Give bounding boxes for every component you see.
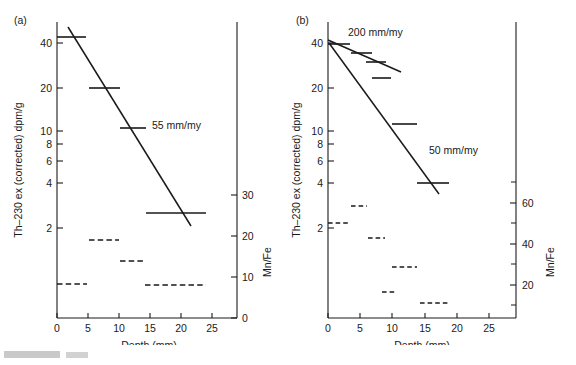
annotation-200-mm-my: 200 mm/my xyxy=(348,26,404,38)
tick-label: 40 xyxy=(522,238,534,250)
tick-label: 20 xyxy=(175,322,187,334)
tick-label: 30 xyxy=(242,189,254,201)
tick-label: 0 xyxy=(325,322,331,334)
panel-a-plot: 40 20 10 8 6 4 2 0 5 10 15 xyxy=(0,0,288,345)
tick-label: 6 xyxy=(46,155,52,167)
tick-label: 8 xyxy=(317,138,323,150)
tick-label: 25 xyxy=(206,322,218,334)
tick-label: 10 xyxy=(40,125,52,137)
tick-label: 0 xyxy=(242,312,248,324)
panel-a-mnfe-bars xyxy=(57,240,206,285)
panel-a-bottom-tick-labels: 0 5 10 15 20 25 xyxy=(54,322,218,334)
panel-b-label: (b) xyxy=(296,14,309,26)
tick-label: 6 xyxy=(317,155,323,167)
tick-label: 10 xyxy=(386,322,398,334)
tick-label: 20 xyxy=(522,279,534,291)
panel-b-plot: 40 20 10 8 6 4 2 0 5 10 15 xyxy=(288,0,576,345)
panel-a-left-ticks xyxy=(57,43,63,228)
panel-b-bottom-tick-labels: 0 5 10 15 20 25 xyxy=(325,322,495,334)
tick-label: 10 xyxy=(311,125,323,137)
tick-label: 20 xyxy=(40,82,52,94)
tick-label: 2 xyxy=(46,222,52,234)
panel-a: 40 20 10 8 6 4 2 0 5 10 15 xyxy=(0,0,288,345)
tick-label: 20 xyxy=(451,322,463,334)
panel-b-y2label: Mn/Fe xyxy=(544,247,556,277)
tick-label: 5 xyxy=(357,322,363,334)
panel-a-right-ticks xyxy=(231,195,237,318)
tick-label: 60 xyxy=(522,197,534,209)
tick-label: 25 xyxy=(483,322,495,334)
tick-label: 40 xyxy=(311,37,323,49)
tick-label: 8 xyxy=(46,138,52,150)
panel-b-xlabel: Depth (mm) xyxy=(394,339,449,345)
tick-label: 0 xyxy=(54,322,60,334)
tick-label: 2 xyxy=(317,222,323,234)
panel-b-bottom-ticks xyxy=(328,313,489,318)
tick-label: 20 xyxy=(311,82,323,94)
annotation-55-mm-my: 55 mm/my xyxy=(152,119,202,131)
annotation-50-mm-my: 50 mm/my xyxy=(429,144,479,156)
panel-a-ylabel: Th–230 ex (corrected) dpm/g xyxy=(12,102,24,238)
tick-label: 10 xyxy=(113,322,125,334)
tick-label: 15 xyxy=(144,322,156,334)
tick-label: 15 xyxy=(419,322,431,334)
tick-label: 40 xyxy=(40,37,52,49)
panel-b-fit-lines xyxy=(328,40,439,194)
panel-a-left-tick-labels: 40 20 10 8 6 4 2 xyxy=(40,37,52,234)
panel-b-right-ticks xyxy=(510,203,516,285)
tick-label: 5 xyxy=(85,322,91,334)
tick-label: 10 xyxy=(242,271,254,283)
panel-b-left-tick-labels: 40 20 10 8 6 4 2 xyxy=(311,37,323,234)
panel-a-y2label: Mn/Fe xyxy=(261,247,273,277)
tick-label: 20 xyxy=(242,230,254,242)
panel-a-axes xyxy=(57,22,237,318)
tick-label: 4 xyxy=(317,177,323,189)
figure-root: 40 20 10 8 6 4 2 0 5 10 15 xyxy=(0,0,576,365)
fit-line-50 xyxy=(329,43,439,194)
panel-b-th230-bars xyxy=(328,44,449,183)
panel-a-label: (a) xyxy=(14,14,27,26)
panel-b-mnfe-bars xyxy=(328,206,449,303)
panel-b-left-ticks xyxy=(328,43,334,228)
panel-b: 40 20 10 8 6 4 2 0 5 10 15 xyxy=(288,0,576,345)
panel-b-right-tick-labels: 20 40 60 xyxy=(522,197,534,291)
panel-a-right-tick-labels: 0 10 20 30 xyxy=(242,189,254,324)
panel-a-xlabel: Depth (mm) xyxy=(121,339,176,345)
panel-a-bottom-ticks xyxy=(57,313,212,318)
panel-b-ylabel: Th–230 ex (corrected) dpm/g xyxy=(290,102,302,238)
tick-label: 4 xyxy=(46,177,52,189)
caption-fragment xyxy=(4,349,124,361)
